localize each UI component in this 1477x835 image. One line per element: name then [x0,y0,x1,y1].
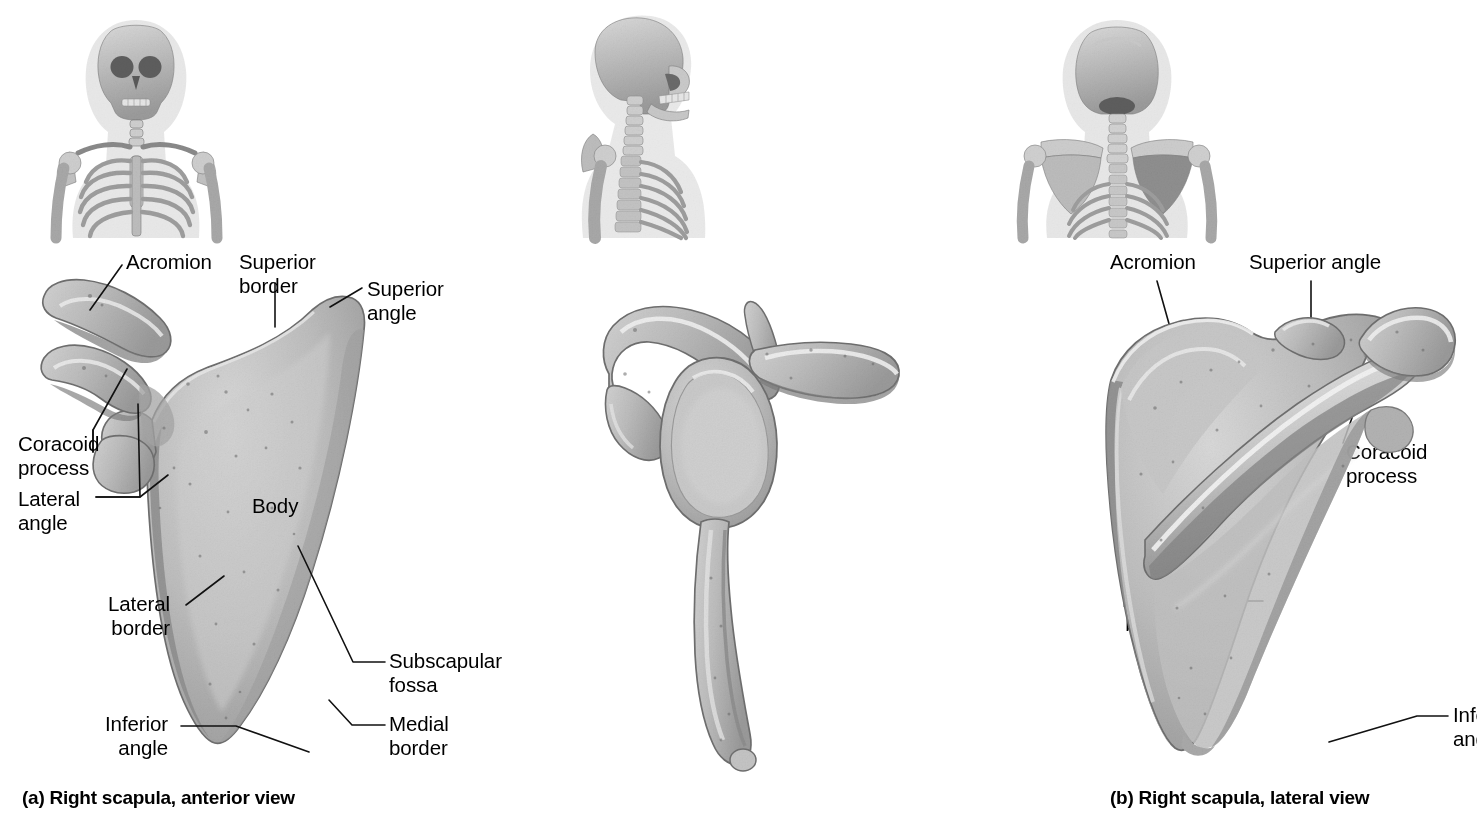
label-lateral-angle: Lateral angle [18,487,80,535]
label-coracoid-process: Coracoid process [18,432,99,480]
panel-c-posterior-view: Supraspinous fossa Superior border Corac… [995,0,1477,835]
label-superior-angle: Superior angle [367,277,444,325]
scapula-posterior-bone [1025,278,1465,778]
skeleton-lateral-thumbnail [565,6,801,238]
scapula-lateral-bone [595,278,925,778]
label-inferior-angle: Inferior angle [40,712,168,760]
scapula-anterior-bone [40,272,420,772]
label-acromion: Acromion [126,250,212,274]
scapula-figure: Acromion Superior border Superior angle … [0,0,1477,835]
label-medial-border: Medial border [389,712,449,760]
label-subscapular-fossa: Subscapular fossa [389,649,502,697]
skeleton-anterior-thumbnail [18,6,254,238]
label-superior-border: Superior border [239,250,316,298]
skeleton-posterior-thumbnail [997,6,1241,238]
label-lateral-border: Lateral border [42,592,170,640]
label-body: Body [252,494,298,518]
panel-a-anterior-view: Acromion Superior border Superior angle … [0,0,545,835]
panel-b-lateral-view: Acromion Superior angle Glenoid cavity C… [545,0,995,835]
caption-panel-a: (a) Right scapula, anterior view [22,787,295,809]
